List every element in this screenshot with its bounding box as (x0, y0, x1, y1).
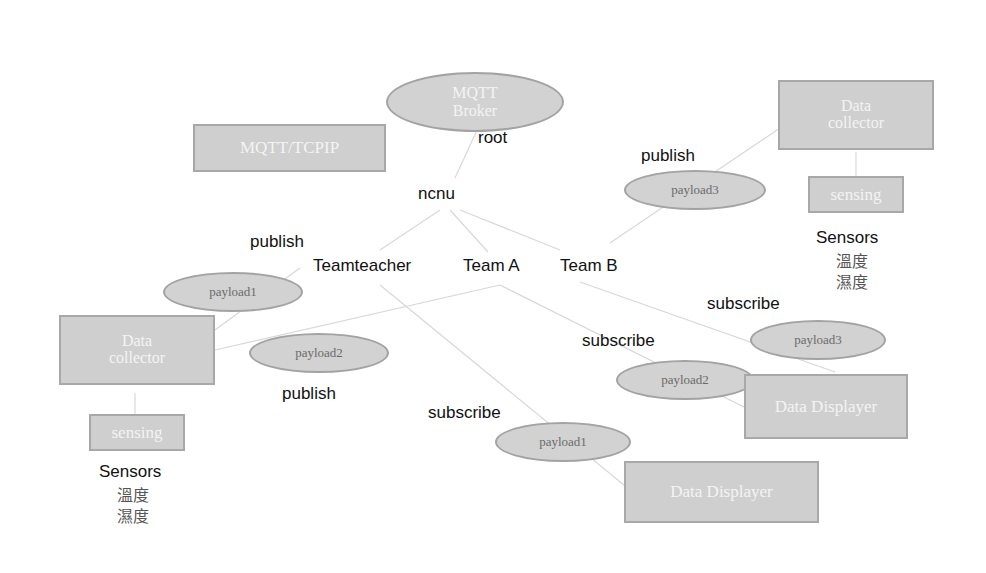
subscribe-label-1: subscribe (428, 403, 501, 423)
payload3-subscribe: payload3 (750, 320, 886, 360)
temperature-label: 溫度 (836, 252, 868, 273)
topic-team-a: Team A (463, 256, 520, 276)
topic-teamteacher: Teamteacher (313, 256, 411, 276)
right-sensing-box: sensing (808, 176, 904, 213)
data-displayer-1: Data Displayer (624, 461, 819, 523)
data-displayer-2: Data Displayer (744, 374, 908, 439)
mqtt-broker-node: MQTTBroker (386, 72, 564, 132)
right-data-collector: Data collector (778, 80, 934, 150)
subscribe-label-3: subscribe (707, 294, 780, 314)
left-sensing-box: sensing (89, 414, 185, 451)
left-sensors-label: Sensors (99, 462, 161, 482)
right-sensor-types: 溫度 濕度 (836, 252, 868, 294)
broker-label-2: Broker (452, 102, 497, 120)
payload1-subscribe: payload1 (495, 422, 631, 462)
payload2-subscribe: payload2 (616, 360, 754, 400)
payload1-publish: payload1 (163, 272, 303, 312)
left-publish-label-1: publish (250, 232, 304, 252)
payload2-publish: payload2 (249, 333, 389, 373)
collector-label-1: Data (841, 98, 871, 115)
humidity-label: 濕度 (117, 507, 149, 528)
protocol-box: MQTT/TCPIP (193, 124, 386, 172)
broker-label-1: MQTT (452, 84, 497, 102)
collector-label-2: collector (109, 350, 165, 367)
left-publish-label-2: publish (282, 384, 336, 404)
topic-root: root (478, 128, 507, 148)
left-sensor-types: 溫度 濕度 (117, 486, 149, 528)
left-data-collector: Data collector (59, 315, 215, 385)
payload3-publish: payload3 (624, 170, 766, 210)
collector-label-2: collector (828, 115, 884, 132)
humidity-label: 濕度 (836, 273, 868, 294)
topic-team-b: Team B (560, 256, 618, 276)
subscribe-label-2: subscribe (582, 331, 655, 351)
topic-ncnu: ncnu (418, 184, 455, 204)
right-publish-label: publish (641, 146, 695, 166)
right-sensors-label: Sensors (816, 228, 878, 248)
temperature-label: 溫度 (117, 486, 149, 507)
collector-label-1: Data (122, 333, 152, 350)
